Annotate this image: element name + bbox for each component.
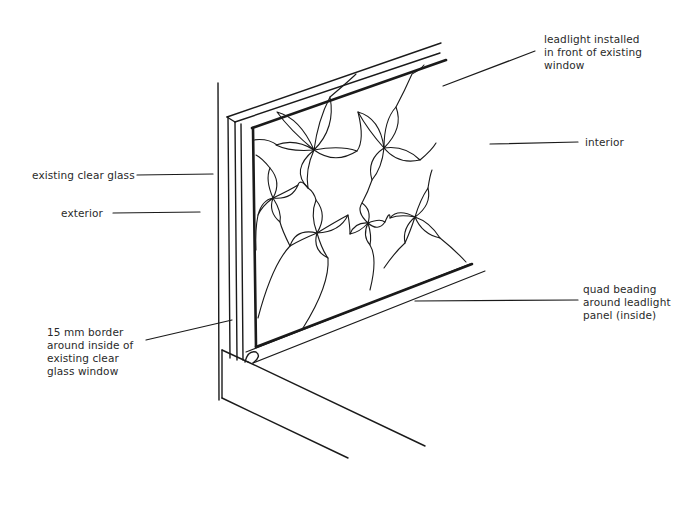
window-sill bbox=[222, 350, 425, 458]
wall-edge bbox=[218, 83, 219, 400]
label-15mm-border: 15 mm border around inside of existing c… bbox=[47, 326, 133, 378]
label-existing-clear-glass: existing clear glass bbox=[32, 169, 135, 182]
leadlight-window-diagram bbox=[0, 0, 696, 509]
label-exterior: exterior bbox=[61, 207, 103, 220]
label-quad-beading: quad beading around leadlight panel (ins… bbox=[583, 283, 671, 322]
quad-beading bbox=[245, 264, 485, 363]
label-leadlight-installed: leadlight installed in front of existing… bbox=[544, 33, 642, 72]
label-interior: interior bbox=[585, 136, 624, 149]
